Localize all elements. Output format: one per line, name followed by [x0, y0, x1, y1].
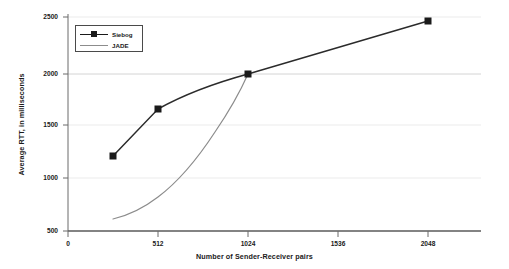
x-tick-label-1536: 1536: [318, 240, 358, 247]
series-line-siebog: [113, 21, 428, 156]
x-tick-label-512: 512: [138, 240, 178, 247]
legend-label-siebog: Siebog: [112, 29, 133, 40]
series-markers-siebog: [110, 18, 432, 160]
chart-container: 2500 2000 1500 1000 500 0 512 1024 1536 …: [0, 0, 509, 269]
legend-entry-siebog: Siebog: [80, 29, 140, 40]
legend-line-swatch-jade: [80, 45, 108, 46]
y-tick-label-1500: 1500: [24, 121, 58, 128]
x-axis-ticks: [68, 231, 428, 237]
series-line-jade: [113, 74, 248, 219]
y-tick-label-500: 500: [24, 227, 58, 234]
y-tick-label-2000: 2000: [24, 70, 58, 77]
legend-label-jade: JADE: [112, 40, 129, 51]
x-axis-title: Number of Sender-Receiver pairs: [0, 252, 509, 261]
legend-entry-jade: JADE: [80, 40, 140, 51]
y-axis-title: Average RTT, in milliseconds: [17, 60, 26, 190]
x-tick-label-1024: 1024: [228, 240, 268, 247]
x-tick-label-2048: 2048: [408, 240, 448, 247]
y-axis-ticks: [63, 17, 68, 231]
legend-square-marker-icon: [91, 31, 97, 37]
x-tick-label-0: 0: [48, 240, 88, 247]
y-tick-label-2500: 2500: [24, 13, 58, 20]
chart-legend: Siebog JADE: [75, 25, 143, 52]
y-tick-label-1000: 1000: [24, 174, 58, 181]
